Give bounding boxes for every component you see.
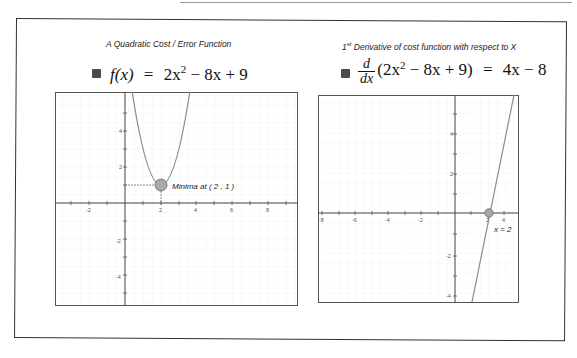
svg-text:4: 4 (194, 207, 197, 213)
svg-text:-2: -2 (418, 217, 423, 223)
equals-sign: = (483, 60, 493, 79)
svg-text:2: 2 (159, 207, 162, 213)
equals-sign: = (144, 65, 154, 84)
frac-denominator: dx (358, 72, 375, 86)
right-panel-title: 1st Derivative of cost function with res… (342, 41, 516, 52)
equation-rhs: 4x − 8 (503, 60, 547, 79)
svg-text:4: 4 (502, 217, 505, 223)
quadratic-plot: -224 68 42 -2-4 Minima at ( 2 , 1 ) (55, 92, 298, 306)
frac-numerator: d (358, 57, 375, 72)
bullet-icon (92, 69, 101, 78)
svg-text:2: 2 (450, 171, 453, 177)
svg-text:-2: -2 (446, 253, 451, 259)
top-edge-line (180, 2, 572, 3)
svg-text:-8: -8 (319, 217, 324, 223)
svg-text:-2: -2 (116, 238, 121, 244)
svg-text:4: 4 (119, 128, 122, 134)
svg-text:-2: -2 (86, 207, 91, 213)
title-text: Derivative of cost function with respect… (351, 42, 516, 52)
plot-area (56, 93, 298, 306)
zero-crossing-marker (485, 209, 493, 217)
svg-text:-4: -4 (116, 274, 121, 280)
svg-text:4: 4 (450, 131, 453, 137)
plot-area (319, 96, 519, 303)
right-equation: ddx(2x2 − 8x + 9) = 4x − 8 (358, 57, 546, 86)
svg-text:6: 6 (230, 207, 233, 213)
svg-text:-4: -4 (446, 293, 451, 299)
minimum-marker (155, 179, 167, 191)
equation-term: 2x (164, 65, 181, 84)
svg-text:2: 2 (119, 164, 122, 170)
x-equals-label: x = 2 (493, 225, 512, 234)
equation-term: − 8x + 9 (186, 65, 248, 84)
equation-term: (2x (377, 60, 400, 79)
derivative-plot: -8-6-4-2 24 42 -2-4 x = 2 (318, 95, 520, 304)
svg-text:-4: -4 (385, 217, 390, 223)
left-panel-title: A Quadratic Cost / Error Function (106, 39, 231, 49)
svg-text:8: 8 (266, 207, 269, 213)
minima-label: Minima at ( 2 , 1 ) (172, 182, 235, 191)
left-equation: f(x) = 2x2 − 8x + 9 (110, 63, 248, 85)
equation-lhs: f(x) (110, 65, 134, 84)
svg-text:-6: -6 (352, 217, 357, 223)
bullet-icon (341, 69, 350, 78)
equation-term: − 8x + 9) (405, 60, 472, 79)
derivative-operator: ddx (358, 57, 375, 86)
